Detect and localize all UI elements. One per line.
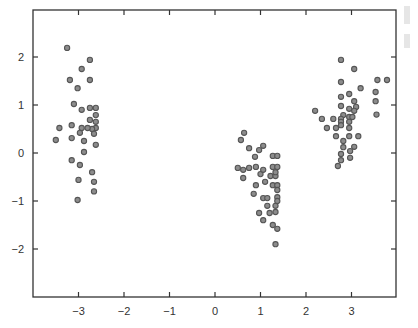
scatter-chart: −3−2−10123 210−1−2 [0,0,418,328]
data-point [85,125,90,130]
data-point [319,116,324,121]
x-axis: −3−2−10123 [72,10,354,317]
data-point [341,138,346,143]
data-point [338,123,343,128]
data-point [352,108,357,113]
data-point [263,179,268,184]
data-point [81,149,86,154]
data-point [261,218,266,223]
data-point [265,203,270,208]
data-point [356,134,361,139]
data-point [261,167,266,172]
data-point [253,164,258,169]
data-point [257,148,262,153]
data-point [241,175,246,180]
data-point [67,77,72,82]
data-point [347,106,352,111]
data-point [93,105,98,110]
data-point [338,151,343,156]
data-point [77,162,82,167]
data-point [235,165,240,170]
data-point [338,94,343,99]
data-point [79,66,84,71]
data-point [90,170,95,175]
data-point [273,170,278,175]
x-tick-label: 2 [303,305,309,317]
y-tick-label: −2 [11,243,24,255]
data-point [69,158,74,163]
data-point [76,177,81,182]
data-point [373,89,378,94]
data-point [375,77,380,82]
data-point [242,130,247,135]
clipped-edge-mark [404,6,410,24]
data-point [338,57,343,62]
data-point [331,116,336,121]
data-point [275,187,280,192]
data-point [338,79,343,84]
data-point [81,138,86,143]
data-point [53,137,58,142]
x-tick-label: 3 [348,305,354,317]
x-tick-label: −2 [118,305,131,317]
x-tick-label: 1 [257,305,263,317]
data-point [87,57,92,62]
data-point [69,136,74,141]
x-tick-label: −1 [163,305,176,317]
data-point [324,125,329,130]
data-point [384,77,389,82]
data-point [247,146,252,151]
data-point [71,101,76,106]
data-point [347,91,352,96]
data-point [338,103,343,108]
data-point [251,191,256,196]
data-point [313,108,318,113]
data-point [275,164,280,169]
data-point [241,167,246,172]
data-point [373,99,378,104]
data-point [87,117,92,122]
data-point [253,183,258,188]
data-point [352,144,357,149]
data-point [347,119,352,124]
data-point [91,179,96,184]
data-point [268,173,273,178]
data-point [348,149,353,154]
data-point [275,226,280,231]
data-point [352,99,357,104]
data-point [75,86,80,91]
data-point [257,210,262,215]
data-point [341,145,346,150]
data-point [347,125,352,130]
data-point [275,198,280,203]
y-tick-label: 0 [18,147,24,159]
data-point [333,134,338,139]
data-point [87,105,92,110]
data-point [69,123,74,128]
data-point [273,242,278,247]
data-point [93,113,98,118]
cluster-middle [235,130,280,247]
data-point [57,125,62,130]
data-point [347,134,352,139]
data-point [87,77,92,82]
y-tick-label: −1 [11,195,24,207]
data-point [374,112,379,117]
data-points [53,45,389,246]
data-point [93,142,98,147]
data-point [93,119,98,124]
data-point [267,210,272,215]
data-point [335,163,340,168]
cluster-right [313,57,390,168]
data-point [65,45,70,50]
y-tick-label: 2 [18,51,24,63]
data-point [265,196,270,201]
cluster-left [53,45,98,202]
data-point [348,155,353,160]
data-point [352,66,357,71]
data-point [79,107,84,112]
data-point [77,130,82,135]
y-tick-label: 1 [18,99,24,111]
data-point [247,165,252,170]
clipped-edge-mark [404,34,410,48]
